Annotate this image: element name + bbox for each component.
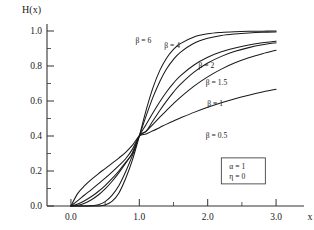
- y-tick-label: 0.8: [30, 61, 42, 71]
- annotation-eta: η = 0: [229, 172, 245, 181]
- data-curves: [71, 31, 276, 206]
- x-axis-tick-labels: 0.01.02.03.0: [65, 212, 282, 222]
- x-tick-label: 1.0: [133, 212, 145, 222]
- curve-beta-1: [71, 50, 276, 206]
- chart-figure: 0.00.20.40.60.81.0 0.01.02.03.0 H(x) x β…: [0, 0, 314, 230]
- x-axis-minor-ticks: [105, 202, 242, 206]
- curve-beta-6: [71, 31, 276, 206]
- x-tick-label: 0.0: [65, 212, 77, 222]
- sigmoid-chart: 0.00.20.40.60.81.0 0.01.02.03.0 H(x) x β…: [0, 0, 314, 230]
- x-tick-label: 2.0: [202, 212, 214, 222]
- series-label-beta-1: β = 1: [207, 99, 223, 108]
- y-axis-tick-labels: 0.00.20.40.60.81.0: [30, 26, 42, 211]
- y-tick-label: 0.4: [30, 131, 42, 141]
- series-label-beta-4: β = 4: [164, 41, 180, 50]
- y-tick-label: 1.0: [30, 26, 42, 36]
- annotation-alpha: α = 1: [229, 162, 245, 171]
- series-label-beta-2: β = 2: [198, 61, 214, 70]
- series-label-beta-1.5: β = 1.5: [206, 78, 228, 87]
- y-tick-label: 0.2: [30, 166, 42, 176]
- series-label-beta-0.5: β = 0.5: [206, 131, 228, 140]
- y-axis-minor-ticks: [47, 49, 51, 189]
- y-axis-title: H(x): [22, 4, 41, 16]
- x-axis-title: x: [308, 211, 313, 222]
- series-label-beta-6: β = 6: [136, 36, 152, 45]
- x-tick-label: 3.0: [270, 212, 282, 222]
- curve-beta-4: [71, 32, 276, 206]
- y-tick-label: 0.6: [30, 96, 42, 106]
- y-tick-label: 0.0: [30, 201, 42, 211]
